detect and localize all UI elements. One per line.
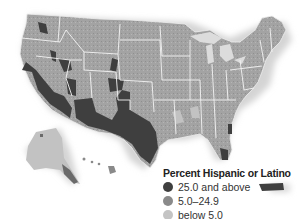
legend-label: 5.0–24.9 <box>178 195 219 207</box>
swatch-circle-icon <box>163 182 173 192</box>
legend-item-mid: 5.0–24.9 <box>163 194 302 207</box>
legend-label: 25.0 and above <box>178 181 250 193</box>
legend-label: below 5.0 <box>178 209 223 220</box>
legend-item-high: 25.0 and above <box>163 180 302 193</box>
swatch-circle-icon <box>163 210 173 220</box>
hawaii <box>83 158 117 175</box>
legend-item-low: below 5.0 <box>163 208 302 219</box>
swatch-circle-icon <box>163 196 173 206</box>
legend: Percent Hispanic or Latino 25.0 and abov… <box>163 167 302 219</box>
legend-title: Percent Hispanic or Latino <box>163 167 302 179</box>
